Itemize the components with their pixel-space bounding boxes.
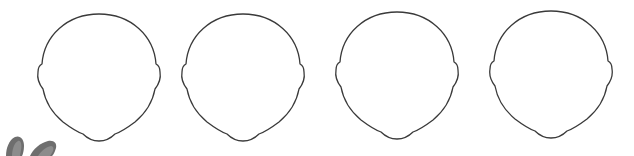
head-outline-3 [336, 12, 459, 139]
head-outline-2 [182, 14, 305, 141]
head-outline-1 [38, 14, 161, 141]
head-outline-4 [490, 11, 613, 138]
head-templates-canvas [0, 0, 634, 156]
fingertips-corner-object [6, 136, 56, 156]
